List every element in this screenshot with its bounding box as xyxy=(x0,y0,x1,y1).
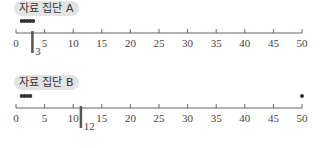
dot-plot-b: 0510152025303540455012 xyxy=(0,74,320,148)
tick-label: 5 xyxy=(42,37,48,49)
tick-label: 45 xyxy=(268,112,280,124)
panel-b: 자료 집단 B 0510152025303540455012 xyxy=(0,74,320,148)
median-label: 3 xyxy=(35,45,41,57)
tick-label: 25 xyxy=(154,37,166,49)
tick-label: 30 xyxy=(182,112,194,124)
tick-label: 50 xyxy=(297,112,309,124)
tick-label: 35 xyxy=(211,112,223,124)
data-dot xyxy=(28,94,32,98)
tick-label: 50 xyxy=(297,37,309,49)
tick-label: 10 xyxy=(68,112,80,124)
tick-label: 15 xyxy=(96,37,108,49)
median-marker xyxy=(31,31,34,53)
tick-label: 20 xyxy=(125,112,137,124)
data-dot xyxy=(300,94,304,98)
tick-label: 40 xyxy=(239,37,251,49)
tick-label: 40 xyxy=(239,112,251,124)
tick-label: 0 xyxy=(13,37,19,49)
dot-plot-a: 051015202530354045503 xyxy=(0,0,320,74)
tick-label: 45 xyxy=(268,37,280,49)
tick-label: 30 xyxy=(182,37,194,49)
tick-label: 20 xyxy=(125,37,137,49)
data-dot xyxy=(31,19,35,23)
median-marker xyxy=(80,106,83,128)
tick-label: 35 xyxy=(211,37,223,49)
tick-label: 5 xyxy=(42,112,48,124)
tick-label: 15 xyxy=(96,112,108,124)
panel-a: 자료 집단 A 051015202530354045503 xyxy=(0,0,320,74)
tick-label: 25 xyxy=(154,112,166,124)
tick-label: 10 xyxy=(68,37,80,49)
median-label: 12 xyxy=(84,120,95,132)
tick-label: 0 xyxy=(13,112,19,124)
